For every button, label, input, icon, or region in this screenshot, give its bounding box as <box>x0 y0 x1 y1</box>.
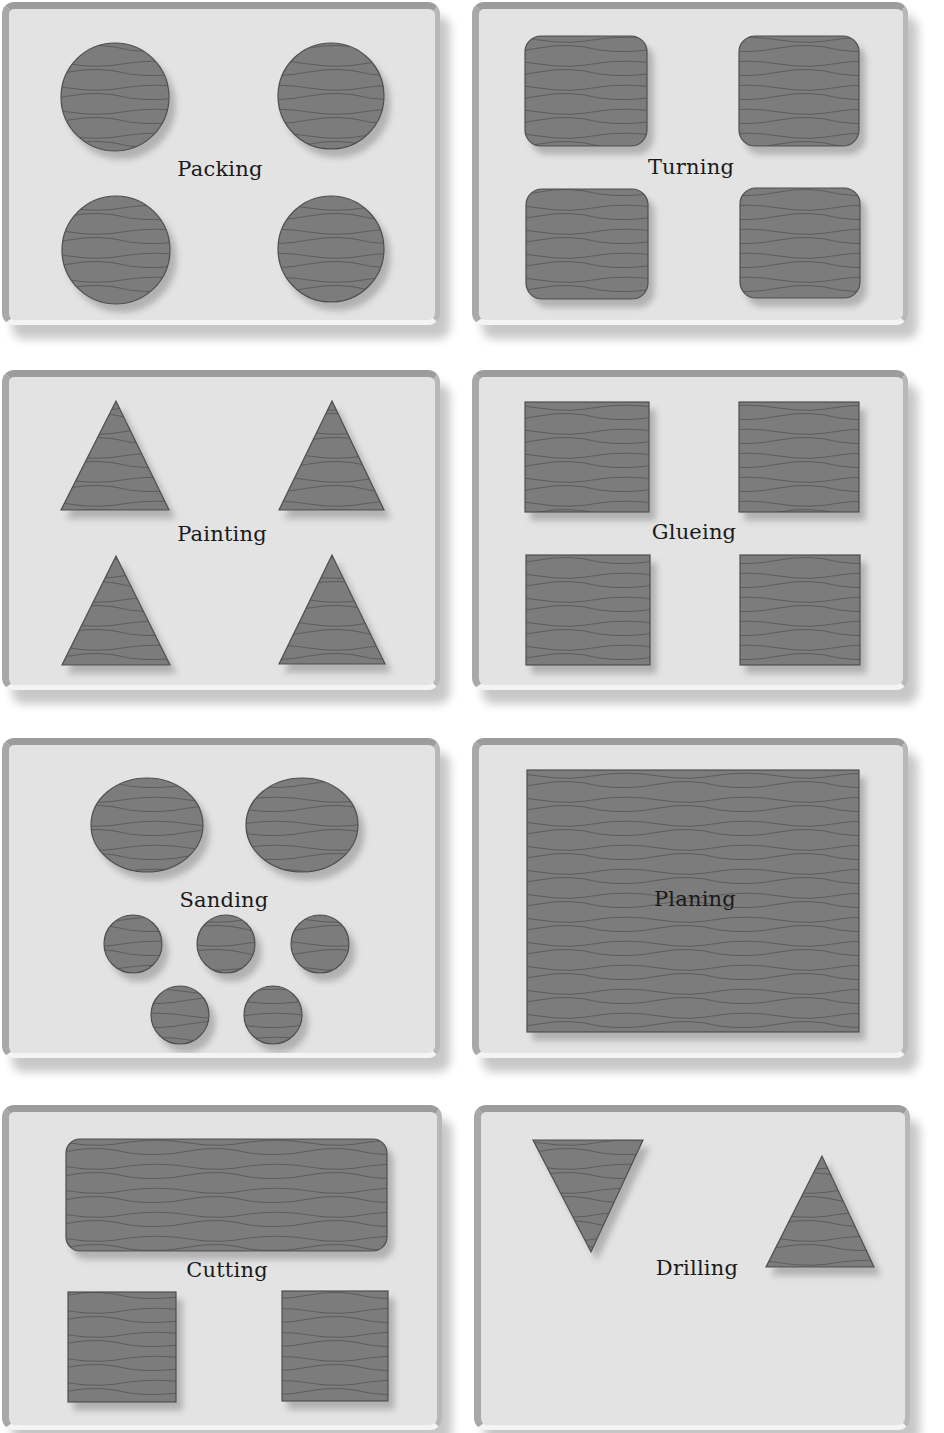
large-disc-piece-icon <box>246 778 358 872</box>
panel-painting: Painting <box>2 370 440 690</box>
panel-glueing: Glueing <box>472 370 908 690</box>
panel-packing: Packing <box>2 2 440 325</box>
rounded-square-piece-icon <box>739 36 859 146</box>
panel-label: Painting <box>177 522 267 546</box>
rounded-square-piece-icon <box>526 189 648 299</box>
large-disc-piece-icon <box>91 778 203 872</box>
circle-piece-icon <box>61 43 169 151</box>
small-disc-piece-icon <box>291 915 349 973</box>
panel-label: Packing <box>177 157 262 181</box>
triangle-piece-icon <box>61 401 169 510</box>
triangle-piece-icon <box>279 555 385 664</box>
small-disc-piece-icon <box>151 986 209 1044</box>
rounded-square-piece-icon <box>525 36 647 146</box>
panel-label: Drilling <box>656 1256 738 1280</box>
inverted-triangle-piece-icon <box>533 1140 643 1252</box>
panel-cutting: Cutting <box>2 1105 442 1430</box>
panel-drilling: Drilling <box>474 1105 910 1430</box>
small-disc-piece-icon <box>104 915 162 973</box>
square-piece-icon <box>525 402 649 512</box>
triangle-piece-icon <box>62 556 170 665</box>
small-disc-piece-icon <box>244 986 302 1044</box>
square-piece-icon <box>739 402 859 512</box>
panel-label: Planing <box>654 887 736 911</box>
panel-label: Sanding <box>180 888 269 912</box>
panel-sanding: Sanding <box>2 738 440 1058</box>
circle-piece-icon <box>62 196 170 304</box>
panel-planing: Planing <box>472 738 908 1058</box>
rounded-square-piece-icon <box>740 188 860 298</box>
small-disc-piece-icon <box>197 915 255 973</box>
square-piece-icon <box>526 555 650 665</box>
panel-label: Turning <box>648 155 734 179</box>
square-piece-icon <box>740 555 860 665</box>
triangle-piece-icon <box>279 401 384 510</box>
block-piece-icon <box>68 1292 176 1402</box>
panel-turning: Turning <box>472 2 908 325</box>
circle-piece-icon <box>278 196 384 302</box>
panel-label: Cutting <box>186 1258 268 1282</box>
triangle-piece-icon <box>766 1156 874 1267</box>
circle-piece-icon <box>278 43 384 149</box>
panel-label: Glueing <box>652 520 737 544</box>
wide-board-piece-icon <box>66 1139 387 1251</box>
block-piece-icon <box>282 1291 388 1401</box>
